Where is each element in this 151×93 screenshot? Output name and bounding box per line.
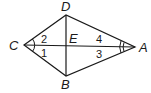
figure-drawing [0, 0, 151, 93]
vertex-label-C: C [9, 39, 18, 52]
geometry-diagram: D C A B E 2 1 4 3 [0, 0, 151, 93]
vertex-label-A: A [139, 41, 148, 54]
angle-label-1: 1 [41, 48, 47, 59]
intersection-label-E: E [69, 32, 78, 45]
angle-label-2: 2 [41, 34, 47, 45]
angle-label-3: 3 [96, 49, 102, 60]
vertex-label-D: D [61, 0, 70, 13]
vertex-label-B: B [61, 78, 70, 91]
angle-label-4: 4 [96, 34, 102, 45]
